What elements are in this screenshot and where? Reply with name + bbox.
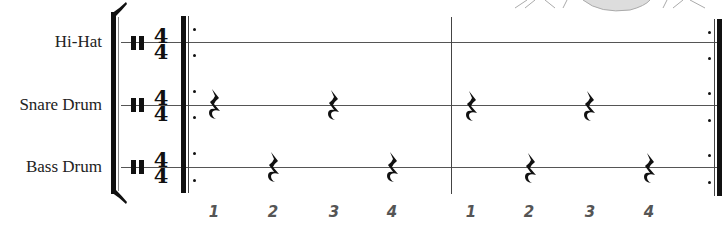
beat-count: 3 — [582, 203, 598, 221]
snare-quarter-rest-m2-b1-icon — [465, 91, 479, 121]
staff-line-hihat — [121, 42, 722, 43]
beat-count: 4 — [641, 203, 657, 221]
beat-count: 1 — [206, 203, 222, 221]
time-signature-bass: 44 — [152, 152, 170, 184]
drum-kit-illustration-icon — [505, 0, 720, 12]
beat-count: 4 — [384, 203, 400, 221]
bass-quarter-rest-m1-b4-icon — [386, 152, 400, 182]
measure-barline — [451, 17, 452, 194]
time-signature-snare: 44 — [152, 90, 170, 122]
beat-count: 2 — [521, 203, 537, 221]
time-signature-hihat: 44 — [152, 28, 170, 60]
beat-count: 3 — [326, 203, 342, 221]
bass-quarter-rest-m2-b4-icon — [643, 153, 657, 183]
instrument-label-snare: Snare Drum — [19, 95, 102, 115]
staff-line-bass — [121, 167, 722, 168]
snare-quarter-rest-m2-b3-icon — [583, 91, 597, 121]
bass-quarter-rest-m2-b2-icon — [524, 153, 538, 183]
beat-count: 1 — [463, 203, 479, 221]
beat-count: 2 — [265, 203, 281, 221]
snare-quarter-rest-m1-b3-icon — [327, 90, 341, 120]
instrument-label-bass: Bass Drum — [26, 157, 102, 177]
bass-quarter-rest-m1-b2-icon — [267, 152, 281, 182]
instrument-label-hihat: Hi-Hat — [55, 32, 102, 52]
snare-quarter-rest-m1-b1-icon — [208, 89, 222, 119]
